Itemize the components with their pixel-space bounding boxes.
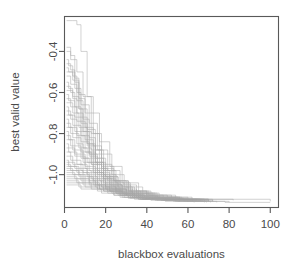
convergence-chart: 020406080100 -0.4-0.6-0.8-1.0 blackbox e… [0, 0, 296, 275]
y-axis-title: best valid value [9, 72, 21, 151]
x-tick-label: 100 [261, 218, 280, 230]
x-tick-label: 80 [223, 218, 236, 230]
y-tick-label: -0.6 [47, 83, 59, 103]
y-tick-label: -0.4 [47, 41, 59, 61]
y-tick-label: -1.0 [47, 165, 59, 185]
x-axis-title: blackbox evaluations [118, 248, 225, 260]
chart-background [0, 0, 296, 275]
x-tick-label: 0 [61, 218, 67, 230]
y-tick-label: -0.8 [47, 124, 59, 144]
chart-svg: 020406080100 -0.4-0.6-0.8-1.0 blackbox e… [0, 0, 296, 275]
x-tick-label: 20 [99, 218, 112, 230]
x-tick-label: 60 [182, 218, 195, 230]
x-tick-label: 40 [140, 218, 153, 230]
